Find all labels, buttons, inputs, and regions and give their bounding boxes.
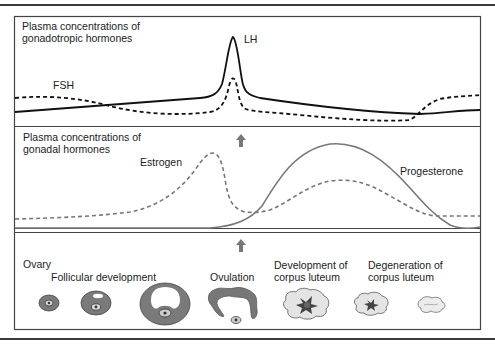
fsh-label: FSH xyxy=(53,79,74,91)
secondary-follicle-icon xyxy=(81,291,111,315)
estrogen-label: Estrogen xyxy=(140,156,182,168)
middle-panel-title: Plasma concentrations of gonadal hormone… xyxy=(23,131,141,155)
progesterone-curve xyxy=(15,144,480,229)
primary-follicle-icon xyxy=(39,295,59,311)
corpus-luteum-development-label: Development of corpus luteum xyxy=(274,259,348,283)
estrogen-curve xyxy=(15,153,480,219)
corpus-luteum-degeneration-label: Degeneration of corpus luteum xyxy=(368,259,443,283)
lh-label: LH xyxy=(244,33,257,45)
ovulation-icon xyxy=(208,287,257,323)
up-arrow-icon xyxy=(236,239,246,252)
progesterone-label: Progesterone xyxy=(400,165,463,177)
ovary-label: Ovary xyxy=(23,258,51,270)
corpus-albicans-icon xyxy=(418,297,445,313)
ovulation-label: Ovulation xyxy=(210,271,254,283)
up-arrow-icon xyxy=(236,134,246,147)
lh-curve xyxy=(15,37,480,114)
degenerating-corpus-luteum-icon xyxy=(354,292,388,315)
follicular-development-label: Follicular development xyxy=(51,271,156,283)
mature-follicle-icon xyxy=(140,283,190,325)
top-panel-title: Plasma concentrations of gonadotropic ho… xyxy=(22,20,140,44)
developing-corpus-luteum-icon xyxy=(284,288,329,319)
